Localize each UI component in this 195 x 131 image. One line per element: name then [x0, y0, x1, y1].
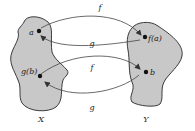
set-label-y: Y: [143, 115, 149, 124]
diagram-canvas: f g f g a g(b) f(a) b X Y: [0, 0, 195, 131]
point-label-a: a: [29, 28, 34, 37]
point-a: [37, 29, 41, 33]
arrow-label-f-bottom: f: [90, 63, 96, 72]
arrow-label-g-bottom: g: [89, 103, 94, 112]
point-fa: [143, 35, 147, 39]
point-gb: [38, 74, 42, 78]
set-label-x: X: [37, 115, 44, 124]
arrow-label-g-top: g: [89, 39, 94, 48]
arrow-f-a-to-fa: [41, 16, 141, 35]
point-b: [144, 70, 148, 74]
function-mapping-diagram: f g f g a g(b) f(a) b X Y: [0, 0, 195, 131]
point-label-b: b: [150, 68, 155, 77]
point-label-fa: f(a): [147, 34, 162, 43]
arrow-label-f-top: f: [98, 3, 104, 12]
point-label-gb: g(b): [21, 67, 37, 76]
